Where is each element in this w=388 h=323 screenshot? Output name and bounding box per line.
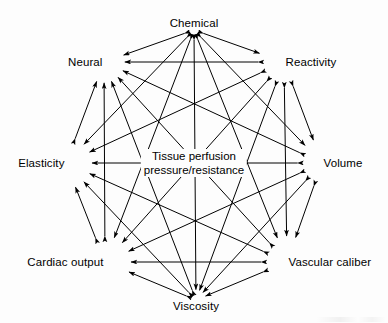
edge-chemical-neural [124, 33, 185, 55]
center-label-line-2: pressure/resistance [141, 163, 247, 177]
edge-chemical-cardiac-output [114, 39, 190, 237]
edge-viscosity-elasticity [84, 182, 189, 293]
edge-volume-vascular-caliber [296, 186, 314, 237]
edge-vascular-caliber-elasticity [90, 174, 264, 252]
edge-cardiac-output-neural [104, 83, 105, 236]
edge-elasticity-neural [75, 81, 97, 138]
node-cardiac-output[interactable]: Cardiac output [26, 256, 105, 269]
edge-viscosity-cardiac-output [129, 272, 186, 296]
node-reactivity[interactable]: Reactivity [284, 56, 338, 69]
node-volume[interactable]: Volume [322, 157, 364, 170]
edge-viscosity-neural [112, 81, 193, 290]
node-viscosity[interactable]: Viscosity [171, 300, 220, 313]
center-label: Tissue perfusion pressure/resistance [141, 149, 247, 177]
node-neural[interactable]: Neural [67, 56, 104, 69]
edge-cardiac-output-elasticity [76, 187, 96, 238]
edge-reactivity-vascular-caliber [284, 88, 286, 236]
node-elasticity[interactable]: Elasticity [17, 157, 66, 170]
edge-reactivity-volume [293, 86, 313, 140]
edge-reactivity-viscosity [200, 86, 275, 290]
edge-vascular-caliber-viscosity [206, 272, 263, 296]
edge-volume-cardiac-output [129, 173, 300, 251]
diagram-canvas: Chemical Reactivity Volume Vascular cali… [0, 0, 388, 323]
edge-chemical-volume [201, 37, 305, 145]
node-vascular-caliber[interactable]: Vascular caliber [287, 256, 373, 269]
node-chemical[interactable]: Chemical [168, 17, 220, 30]
edge-chemical-reactivity [203, 33, 259, 53]
edge-chemical-elasticity [84, 37, 187, 144]
center-label-line-1: Tissue perfusion [141, 149, 247, 163]
